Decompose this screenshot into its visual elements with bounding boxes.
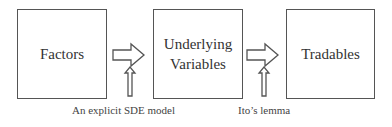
- up-arrow-icon: [125, 67, 135, 96]
- sde-model-annotation: An explicit SDE model: [72, 104, 175, 116]
- right-arrow-icon: [113, 44, 144, 66]
- right-arrow-icon: [247, 44, 278, 66]
- itos-lemma-annotation: Ito’s lemma: [238, 104, 290, 116]
- up-arrow-icon: [259, 67, 269, 96]
- arrows-layer: [0, 0, 392, 127]
